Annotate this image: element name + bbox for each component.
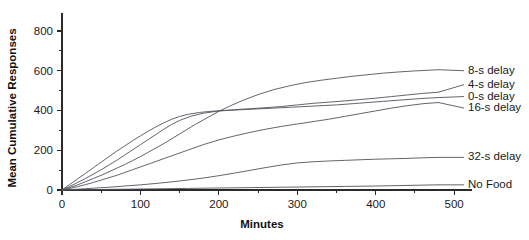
series-label-8-s-delay: 8-s delay: [468, 64, 515, 76]
x-tick-label-400: 400: [366, 198, 385, 210]
series-label-no-food: No Food: [468, 178, 512, 190]
leader-line-4-s-delay: [438, 85, 464, 93]
series-line-16-s-delay: [62, 103, 438, 190]
figure-caption-fragment: [6, 228, 186, 238]
leader-line-0-s-delay: [438, 97, 464, 98]
leader-line-16-s-delay: [438, 103, 464, 109]
x-tick-label-200: 200: [209, 198, 228, 210]
series-line-4-s-delay: [62, 92, 438, 190]
y-tick-label-600: 600: [34, 65, 53, 77]
line-chart: 0200400600800 0100200300400500 8-s delay…: [0, 0, 529, 240]
series-line-0-s-delay: [62, 98, 438, 190]
series-lines: [62, 70, 438, 190]
series-label-32-s-delay: 32-s delay: [468, 150, 521, 162]
y-tick-label-800: 800: [34, 25, 53, 37]
y-tick-label-400: 400: [34, 104, 53, 116]
x-axis: 0100200300400500: [59, 190, 472, 210]
y-axis-title: Mean Cumulative Responses: [6, 28, 18, 187]
x-tick-label-500: 500: [445, 198, 464, 210]
series-line-8-s-delay: [62, 70, 438, 190]
y-tick-label-0: 0: [47, 184, 53, 196]
y-tick-label-200: 200: [34, 144, 53, 156]
series-label-4-s-delay: 4-s delay: [468, 78, 515, 90]
x-tick-label-100: 100: [131, 198, 150, 210]
series-labels: 8-s delay4-s delay0-s delay16-s delay32-…: [468, 64, 521, 190]
series-label-16-s-delay: 16-s delay: [468, 101, 521, 113]
cumulative-response-figure: 0200400600800 0100200300400500 8-s delay…: [0, 0, 529, 240]
x-tick-label-300: 300: [288, 198, 307, 210]
series-line-32-s-delay: [62, 157, 438, 190]
series-label-0-s-delay: 0-s delay: [468, 90, 515, 102]
x-tick-label-0: 0: [59, 198, 65, 210]
y-axis: 0200400600800: [34, 13, 62, 196]
series-leader-lines: [438, 70, 464, 185]
x-axis-title: Minutes: [240, 218, 283, 230]
leader-line-8-s-delay: [438, 70, 464, 71]
